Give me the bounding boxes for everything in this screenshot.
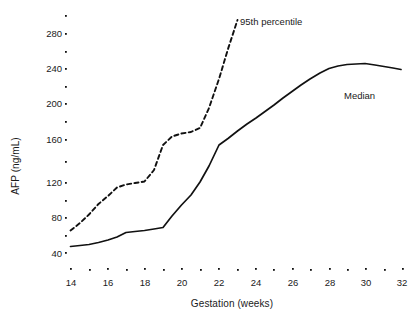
y-tick-label: 200 <box>46 98 62 109</box>
x-tick-label: 28 <box>325 277 336 288</box>
x-tick-label: 26 <box>288 277 299 288</box>
x-tick-label: 30 <box>361 277 372 288</box>
chart-figure: 280 240 200 160 120 80 40 <box>0 0 418 320</box>
y-tick-label: 280 <box>46 28 62 39</box>
series-line-95th-percentile <box>71 20 238 231</box>
series-label-95th-percentile: 95th percentile <box>240 16 302 27</box>
y-tick-label: 40 <box>51 248 62 259</box>
y-tick-label: 240 <box>46 63 62 74</box>
x-tick-label: 18 <box>140 277 151 288</box>
series-label-median: Median <box>344 90 375 101</box>
y-tick-label: 160 <box>46 134 62 145</box>
x-tick-label: 14 <box>66 277 77 288</box>
y-tick-label: 120 <box>46 177 62 188</box>
x-axis-tick-labels: 14 16 18 20 22 24 26 28 30 32 <box>66 277 408 288</box>
x-tick-label: 22 <box>214 277 225 288</box>
x-tick-label: 32 <box>397 277 408 288</box>
x-tick-label: 20 <box>177 277 188 288</box>
y-axis-tick-marks <box>65 15 67 254</box>
x-tick-label: 24 <box>251 277 262 288</box>
y-axis-tick-labels: 280 240 200 160 120 80 40 <box>46 28 62 259</box>
y-tick-label: 80 <box>51 212 62 223</box>
y-axis-title: AFP (ng/mL) <box>10 137 21 195</box>
x-axis-title: Gestation (weeks) <box>191 298 273 309</box>
x-tick-label: 16 <box>103 277 114 288</box>
x-axis-tick-marks <box>70 268 404 271</box>
